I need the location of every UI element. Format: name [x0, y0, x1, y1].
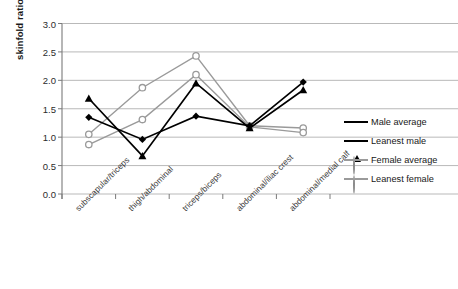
- legend-label: Leanest male: [371, 136, 426, 146]
- legend-item-male-average: Male average: [344, 112, 458, 131]
- series-line: [89, 82, 303, 139]
- chart-legend: Male average Leanest male Female average…: [344, 112, 458, 188]
- data-point-marker: [193, 53, 199, 59]
- legend-item-leanest-female: Leanest female: [344, 169, 458, 188]
- y-axis-tick: 2.0: [22, 75, 56, 86]
- y-axis-tick: 0.0: [22, 189, 56, 200]
- legend-swatch-leanest-male: [344, 135, 368, 147]
- legend-swatch-leanest-female: [344, 173, 368, 185]
- y-axis-tick: 3.0: [22, 18, 56, 29]
- y-axis-tick: 2.5: [22, 46, 56, 57]
- legend-item-female-average: Female average: [344, 150, 458, 169]
- data-point-marker: [193, 71, 199, 77]
- y-axis-tick: 1.5: [22, 103, 56, 114]
- data-point-marker: [299, 86, 307, 93]
- legend-label: Female average: [371, 155, 437, 165]
- data-point-marker: [300, 129, 306, 135]
- legend-swatch-female-average: [344, 154, 368, 166]
- legend-item-leanest-male: Leanest male: [344, 131, 458, 150]
- data-point-marker: [86, 141, 92, 147]
- data-point-marker: [139, 85, 145, 91]
- y-axis-tick: 1.0: [22, 132, 56, 143]
- y-axis-tick: 0.5: [22, 160, 56, 171]
- legend-swatch-male-average: [344, 116, 368, 128]
- legend-label: Male average: [371, 117, 427, 127]
- data-point-marker: [85, 95, 93, 102]
- data-point-marker: [192, 113, 199, 120]
- skinfold-ratio-line-chart: skinfold ratio 0.00.51.01.52.02.53.0 sub…: [0, 0, 458, 289]
- series-line: [89, 56, 303, 134]
- legend-label: Leanest female: [371, 174, 434, 184]
- data-point-marker: [86, 131, 92, 137]
- data-point-marker: [139, 116, 145, 122]
- data-point-marker: [85, 114, 92, 121]
